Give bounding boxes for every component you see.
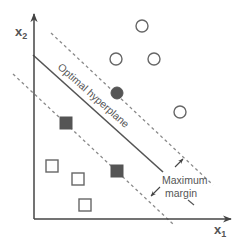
square-support-vector xyxy=(111,165,123,177)
optimal-hyperplane-line xyxy=(33,55,163,172)
margin-leader-line xyxy=(188,200,194,205)
square-point xyxy=(46,160,58,172)
upper-margin-line xyxy=(51,33,213,185)
x-axis-label: x1 xyxy=(214,222,226,239)
svm-diagram: x2 x1 Optimal hyperplane Maximum margin xyxy=(0,0,243,245)
square-class-points xyxy=(46,117,123,211)
margin-arrow-down-icon xyxy=(151,187,160,196)
y-axis-label: x2 xyxy=(15,24,27,41)
circle-point xyxy=(148,53,160,65)
circle-support-vector xyxy=(111,87,123,99)
square-point xyxy=(72,173,84,185)
circle-point xyxy=(174,106,186,118)
circle-point xyxy=(110,53,122,65)
margin-arrow-up-icon xyxy=(175,159,183,167)
square-support-vector xyxy=(60,117,72,129)
margin-label-line1: Maximum xyxy=(162,174,208,186)
margin-label-line2: margin xyxy=(165,187,197,199)
circle-class-points xyxy=(110,20,186,118)
circle-point xyxy=(136,20,148,32)
square-point xyxy=(79,199,91,211)
